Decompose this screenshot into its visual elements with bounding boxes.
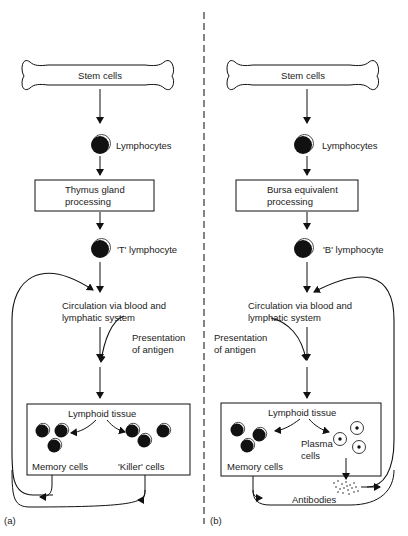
plasma-cells-label-line2: cells (301, 450, 320, 461)
circulation-label-b-line1: Circulation via blood and (248, 300, 352, 311)
presentation-label-a-line2: of antigen (132, 344, 174, 355)
circulation-label-a-line2: lymphatic system (62, 312, 135, 323)
antibody-particles (333, 480, 359, 495)
antibodies-label: Antibodies (292, 494, 336, 505)
lymphocytes-label-b: Lymphocytes (322, 140, 378, 151)
plasma-cells-label-line1: Plasma (301, 438, 333, 449)
killer-cells-label: 'Killer' cells (118, 461, 164, 472)
presentation-label-a-line1: Presentation (132, 332, 185, 343)
bursa-label-line1: Bursa equivalent (267, 184, 338, 195)
panel-b-tag: (b) (210, 515, 222, 526)
thymus-label-line2: processing (65, 196, 111, 207)
thymus-label-line1: Thymus gland (65, 184, 125, 195)
circulation-label-a-line1: Circulation via blood and (62, 300, 166, 311)
presentation-label-b-line2: of antigen (214, 344, 256, 355)
lymphoid-tissue-label-b: Lymphoid tissue (268, 407, 336, 418)
panel-a-graphics (12, 61, 190, 507)
stem-cells-label-a: Stem cells (56, 70, 144, 81)
panel-a-tag: (a) (4, 515, 16, 526)
circulation-label-b-line2: lymphatic system (248, 312, 321, 323)
memory-cells-label-a: Memory cells (32, 461, 88, 472)
b-lymphocyte-label: 'B' lymphocyte (323, 244, 384, 255)
lymphocytes-label-a: Lymphocytes (116, 140, 172, 151)
presentation-label-b-line1: Presentation (214, 332, 267, 343)
bursa-label-line2: processing (267, 196, 313, 207)
stem-cells-label-b: Stem cells (259, 70, 347, 81)
t-lymphocyte-label: 'T' lymphocyte (117, 244, 177, 255)
memory-cells-label-b: Memory cells (227, 461, 283, 472)
lymphoid-tissue-label-a: Lymphoid tissue (68, 408, 136, 419)
